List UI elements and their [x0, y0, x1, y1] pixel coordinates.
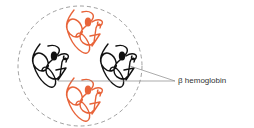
alpha-subunit-top: [67, 10, 103, 53]
alpha-subunit-bottom: [67, 78, 103, 121]
leader-line-upper: [130, 66, 175, 81]
beta-hemoglobin-label: β hemoglobin: [178, 76, 226, 85]
hemoglobin-diagram: [0, 0, 254, 128]
